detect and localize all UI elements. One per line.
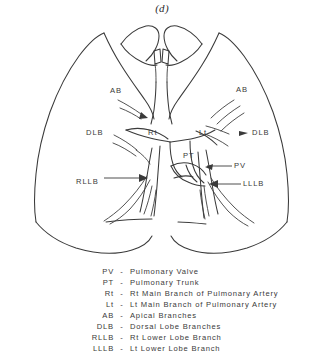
legend-dash: -: [114, 277, 130, 288]
legend-row: DLB-Dorsal Lobe Branches: [0, 321, 324, 332]
legend-description: Pulmonary Trunk: [130, 277, 199, 288]
right-lung-outline: [171, 33, 289, 253]
legend-row: LLLB-Lt Lower Lobe Branch: [0, 343, 324, 354]
legend-row: PV-Pulmonary Valve: [0, 266, 324, 277]
rllb-leader: [104, 174, 148, 182]
lung-diagram-drawing: [0, 0, 324, 270]
label-ab-left: AB: [110, 87, 122, 95]
legend-abbreviation: PT: [0, 277, 114, 288]
legend: PV-Pulmonary ValvePT-Pulmonary TrunkRt-R…: [0, 266, 324, 354]
legend-abbreviation: LLLB: [0, 343, 114, 354]
left-main-branch-vessel: [170, 130, 217, 145]
legend-row: RLLB-Rt Lower Lobe Branch: [0, 332, 324, 343]
pulmonary-trunk-and-valve: [170, 141, 213, 186]
legend-abbreviation: PV: [0, 266, 114, 277]
legend-dash: -: [114, 321, 130, 332]
label-dlb-left: DLB: [86, 129, 103, 137]
figure-root: (d): [0, 0, 324, 362]
legend-description: Lt Main Branch of Pulmonary Artery: [130, 299, 277, 310]
legend-description: Rt Main Branch of Pulmonary Artery: [130, 288, 278, 299]
legend-abbreviation: Lt: [0, 299, 114, 310]
legend-row: Lt-Lt Main Branch of Pulmonary Artery: [0, 299, 324, 310]
legend-dash: -: [114, 343, 130, 354]
label-dlb-right: DLB: [252, 129, 269, 137]
label-pv: PV: [234, 162, 246, 170]
legend-dash: -: [114, 266, 130, 277]
left-apical-branches: [118, 100, 148, 119]
legend-dash: -: [114, 332, 130, 343]
legend-row: Rt-Rt Main Branch of Pulmonary Artery: [0, 288, 324, 299]
left-lung-outline: [35, 33, 153, 253]
label-lt: Lt: [199, 129, 207, 137]
legend-description: Rt Lower Lobe Branch: [130, 332, 222, 343]
legend-abbreviation: RLLB: [0, 332, 114, 343]
legend-description: Apical Branches: [130, 310, 197, 321]
label-ab-right: AB: [236, 86, 248, 94]
legend-abbreviation: AB: [0, 310, 114, 321]
legend-description: Lt Lower Lobe Branch: [130, 343, 220, 354]
legend-abbreviation: Rt: [0, 288, 114, 299]
label-pt: PT: [183, 152, 195, 160]
right-medial-border: [169, 33, 219, 119]
right-dorsal-lobe-branches: [205, 126, 248, 146]
label-rllb: RLLB: [76, 178, 99, 186]
legend-description: Dorsal Lobe Branches: [130, 321, 221, 332]
legend-dash: -: [114, 288, 130, 299]
legend-dash: -: [114, 299, 130, 310]
right-apical-branches: [211, 100, 244, 131]
legend-row: AB-Apical Branches: [0, 310, 324, 321]
legend-row: PT-Pulmonary Trunk: [0, 277, 324, 288]
label-lllb: LLLB: [243, 180, 264, 188]
legend-dash: -: [114, 310, 130, 321]
right-lower-lobe-branch-vessels: [104, 146, 160, 224]
left-dorsal-lobe-branches: [113, 135, 150, 164]
legend-description: Pulmonary Valve: [130, 266, 199, 277]
legend-abbreviation: DLB: [0, 321, 114, 332]
lllb-leader: [209, 180, 241, 188]
label-rt: Rt: [148, 129, 157, 137]
